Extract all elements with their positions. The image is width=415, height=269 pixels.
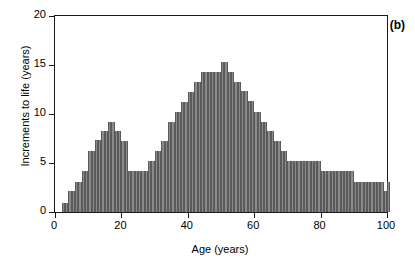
x-tick-label: 60: [233, 219, 273, 231]
x-tick-mark: [188, 212, 189, 218]
x-tick-mark: [121, 212, 122, 218]
x-tick-mark: [254, 212, 255, 218]
y-tick-mark: [49, 163, 55, 164]
x-tick-mark: [55, 212, 56, 218]
x-tick-mark: [321, 212, 322, 218]
x-tick-label: 20: [100, 219, 140, 231]
plot-area: [54, 15, 388, 213]
y-tick-mark: [49, 16, 55, 17]
figure-panel-b: Increments to life (years) 05101520 0204…: [0, 0, 415, 269]
x-axis-title: Age (years): [54, 243, 386, 255]
x-tick-mark: [387, 212, 388, 218]
y-tick-mark: [49, 65, 55, 66]
histogram-bar: [387, 182, 390, 212]
y-tick-label: 15: [6, 57, 46, 69]
panel-label: (b): [390, 18, 405, 32]
x-tick-label: 40: [167, 219, 207, 231]
y-tick-label: 20: [6, 8, 46, 20]
x-tick-label: 100: [366, 219, 406, 231]
x-tick-label: 80: [300, 219, 340, 231]
y-tick-label: 10: [6, 106, 46, 118]
y-tick-mark: [49, 114, 55, 115]
y-tick-label: 0: [6, 204, 46, 216]
x-tick-label: 0: [34, 219, 74, 231]
y-tick-label: 5: [6, 155, 46, 167]
histogram-bars: [55, 16, 387, 212]
